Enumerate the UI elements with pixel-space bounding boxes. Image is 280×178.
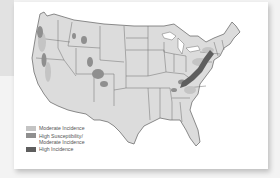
high-incidence-swatch (26, 147, 36, 152)
legend-item-high: High Incidence (26, 146, 85, 152)
moderate-swatch (26, 126, 36, 131)
map-legend: Moderate Incidence High Susceptibility/ … (26, 125, 85, 154)
legend-item-moderate: Moderate Incidence (26, 125, 85, 131)
side-tab (0, 0, 14, 76)
legend-label: Moderate Incidence (39, 125, 85, 131)
map-figure-card: Moderate Incidence High Susceptibility/ … (14, 2, 268, 169)
legend-label: High Susceptibility/ Moderate Incidence (39, 133, 85, 145)
legend-item-high-susceptibility: High Susceptibility/ Moderate Incidence (26, 133, 85, 145)
legend-label: High Incidence (39, 146, 73, 152)
high-susceptibility-swatch (26, 133, 36, 138)
